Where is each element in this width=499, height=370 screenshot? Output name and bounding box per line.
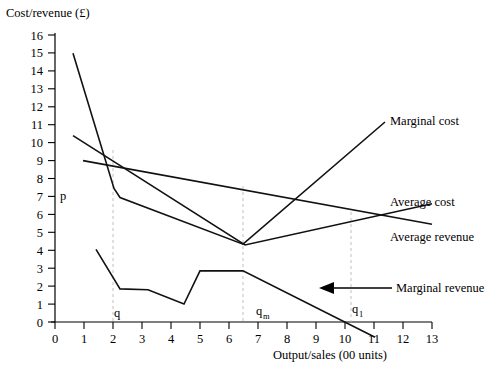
x-axis-ticks	[55, 322, 432, 329]
x-axis-tick-labels: 0 1 2 3 4 5 6 7 8 9 10 11 12 13	[52, 332, 438, 346]
y-axis-ticks	[48, 35, 55, 322]
qm-base: q	[256, 304, 263, 318]
y-tick-11: 11	[31, 118, 43, 132]
x-tick-1: 1	[81, 332, 87, 346]
x-tick-8: 8	[284, 332, 290, 346]
y-tick-10: 10	[31, 136, 44, 150]
x-tick-7: 7	[255, 332, 261, 346]
y-axis-title: Cost/revenue (£)	[6, 6, 90, 20]
x-tick-13: 13	[426, 332, 439, 346]
y-tick-8: 8	[37, 172, 43, 186]
marginal-revenue-arrow	[319, 282, 392, 294]
y-tick-14: 14	[31, 64, 44, 78]
x-tick-9: 9	[313, 332, 319, 346]
marginal-cost-curve	[73, 53, 385, 244]
x-tick-4: 4	[168, 332, 175, 346]
marginal-revenue-label: Marginal revenue	[396, 281, 485, 295]
quantity-marker-label: q	[114, 306, 121, 320]
average-revenue-curve	[83, 161, 432, 225]
average-revenue-label: Average revenue	[390, 230, 475, 244]
y-tick-16: 16	[31, 29, 44, 43]
economics-cost-revenue-chart: 16 15 14 13 12 11 10 9 8 7 6 5 4 3 2 1 0…	[0, 0, 499, 370]
y-tick-0: 0	[37, 316, 43, 330]
y-tick-12: 12	[31, 100, 44, 114]
q1-subscript: 1	[359, 309, 363, 319]
y-tick-9: 9	[37, 154, 43, 168]
x-tick-11: 11	[368, 332, 380, 346]
x-tick-2: 2	[110, 332, 116, 346]
average-cost-curve	[73, 136, 432, 245]
x-axis-title: Output/sales (00 units)	[273, 348, 387, 362]
qm-subscript: m	[263, 311, 270, 321]
y-tick-6: 6	[37, 208, 43, 222]
monopoly-quantity-marker: q m	[256, 304, 270, 321]
x-tick-0: 0	[52, 332, 58, 346]
y-tick-5: 5	[37, 226, 43, 240]
x-tick-3: 3	[139, 332, 145, 346]
competitive-quantity-marker: q 1	[352, 302, 363, 319]
chart-page: 16 15 14 13 12 11 10 9 8 7 6 5 4 3 2 1 0…	[0, 0, 499, 370]
y-tick-4: 4	[37, 244, 44, 258]
x-tick-12: 12	[397, 332, 410, 346]
y-tick-13: 13	[31, 82, 44, 96]
y-axis-tick-labels: 16 15 14 13 12 11 10 9 8 7 6 5 4 3 2 1 0	[31, 29, 44, 330]
price-marker-label: p	[60, 189, 66, 203]
y-tick-7: 7	[37, 190, 43, 204]
y-tick-2: 2	[37, 280, 43, 294]
y-tick-1: 1	[37, 298, 43, 312]
x-tick-10: 10	[339, 332, 352, 346]
x-tick-5: 5	[197, 332, 203, 346]
marginal-cost-label: Marginal cost	[390, 114, 459, 128]
average-cost-label: Average cost	[390, 195, 455, 209]
x-tick-6: 6	[226, 332, 232, 346]
y-tick-15: 15	[31, 46, 44, 60]
q1-base: q	[352, 302, 359, 316]
y-tick-3: 3	[37, 262, 43, 276]
